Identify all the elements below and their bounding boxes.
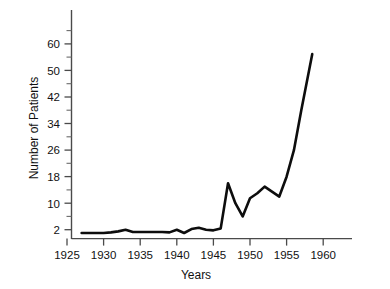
x-axis-major-ticks	[67, 239, 323, 246]
y-axis-tick-labels: 60 50 42 34 26 18 10 2	[47, 38, 60, 236]
x-tick-label: 1945	[201, 249, 227, 261]
x-tick-label: 1950	[237, 249, 263, 261]
x-tick-label: 1935	[127, 249, 153, 261]
y-tick-label: 60	[47, 38, 60, 50]
x-axis-title: Years	[181, 268, 211, 282]
y-tick-label: 42	[47, 91, 60, 103]
x-tick-label: 1960	[310, 249, 336, 261]
y-axis-title: Number of Patients	[27, 77, 41, 180]
y-tick-label: 10	[47, 198, 60, 210]
x-tick-label: 1955	[274, 249, 300, 261]
y-tick-label: 2	[54, 224, 60, 236]
x-axis-tick-labels: 1925 1930 1935 1940 1945 1950 1955 1960	[54, 249, 336, 261]
y-tick-label: 26	[47, 144, 60, 156]
x-tick-label: 1930	[91, 249, 117, 261]
y-tick-label: 50	[47, 65, 60, 77]
chart-figure: 60 50 42 34 26 18 10 2 1925 1930 1935 19…	[0, 0, 390, 289]
y-tick-label: 18	[47, 171, 60, 183]
x-tick-label: 1940	[164, 249, 190, 261]
y-tick-label: 34	[47, 118, 60, 130]
line-chart-canvas: 60 50 42 34 26 18 10 2 1925 1930 1935 19…	[0, 0, 390, 289]
data-series-line	[82, 54, 313, 233]
x-tick-label: 1925	[54, 249, 80, 261]
